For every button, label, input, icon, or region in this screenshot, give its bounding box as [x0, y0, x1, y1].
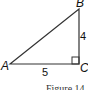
right-angle-marker [72, 57, 79, 64]
side-label-bc: 4 [80, 30, 86, 42]
triangle-diagram: A B C 5 4 Figure 14 [0, 0, 88, 90]
vertex-label-c: C [80, 61, 88, 75]
figure-caption: Figure 14 [46, 83, 85, 90]
side-label-ac: 5 [42, 66, 48, 78]
vertex-label-b: B [76, 0, 84, 10]
triangle-abc [10, 9, 79, 64]
vertex-label-a: A [0, 59, 9, 73]
